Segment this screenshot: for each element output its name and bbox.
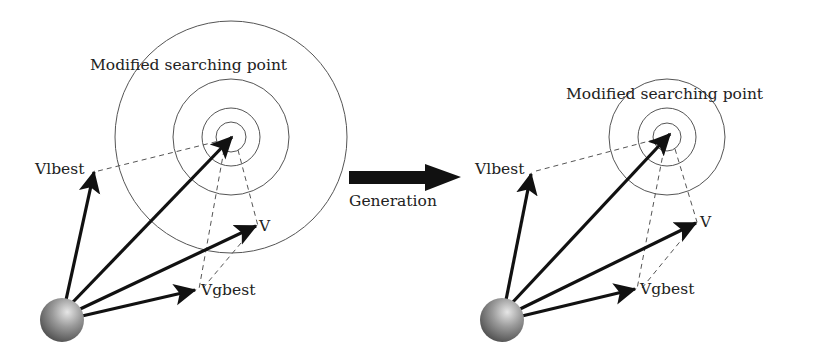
- generation-transition: Generation: [349, 164, 461, 210]
- left-particle-sphere-icon: [40, 298, 84, 342]
- right-vector-vgbest: [522, 289, 635, 316]
- left-vlbest-label: Vlbest: [34, 160, 85, 178]
- left-dashed-lines: [98, 141, 258, 289]
- left-v-label: V: [258, 217, 271, 235]
- left-vector-result: [72, 137, 232, 303]
- right-vector-result: [512, 134, 670, 303]
- right-vector-vlbest: [506, 174, 531, 300]
- left-vgbest-label: Vgbest: [200, 281, 256, 299]
- generation-arrow-icon: [349, 164, 461, 191]
- right-dashed-lines: [536, 139, 697, 289]
- right-panel: Modified searching point Vlbest V Vgbest: [474, 79, 764, 342]
- generation-label: Generation: [349, 192, 437, 210]
- left-panel: Modified searching point Vlbest V Vgbest: [34, 21, 347, 342]
- left-vector-vgbest: [82, 290, 195, 316]
- right-particle-sphere-icon: [480, 298, 524, 342]
- left-vector-vlbest: [66, 172, 94, 300]
- left-title-label: Modified searching point: [90, 56, 288, 74]
- right-vlbest-label: Vlbest: [474, 160, 525, 178]
- right-v-label: V: [699, 213, 712, 231]
- right-vgbest-label: Vgbest: [639, 280, 695, 298]
- right-title-label: Modified searching point: [566, 85, 764, 103]
- diagram-canvas: Modified searching point Vlbest V Vgbest…: [0, 0, 819, 359]
